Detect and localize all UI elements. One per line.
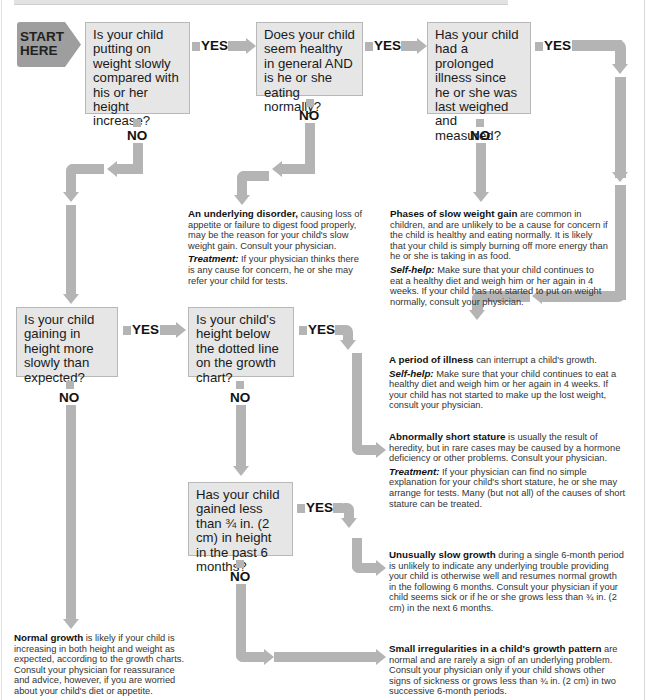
no-marker-icon [236, 381, 244, 389]
question-healthy-eating: Does your child seem healthy in general … [256, 22, 363, 96]
page-edge-right [644, 0, 645, 700]
no-label-q2: NO [299, 108, 319, 123]
yes-label-q3: YES [535, 38, 571, 53]
yes-marker-icon [535, 42, 543, 51]
arrow-right-icon [376, 649, 386, 665]
arrow-bend [344, 503, 354, 519]
arrow-down-icon [63, 192, 79, 202]
arrow-right-icon [264, 649, 274, 665]
question-gained-less: Has your child gained less than ¾ in. (2… [188, 482, 293, 556]
outcome-title: Small irregularities in a child's growth… [389, 643, 601, 654]
arrow-down-icon [63, 294, 79, 304]
arrow-shaft [236, 584, 246, 662]
no-marker-icon [133, 119, 141, 127]
outcome-subtitle: Self-help: [389, 368, 434, 379]
yes-text: YES [308, 322, 335, 337]
yes-text: YES [132, 322, 159, 337]
yes-label-q5: YES [299, 322, 335, 337]
arrow-bend [237, 171, 247, 196]
arrow-down-icon [469, 310, 485, 320]
arrow-right-icon [376, 560, 386, 576]
yes-marker-icon [365, 42, 373, 51]
arrow-shaft [274, 652, 378, 662]
arrow-right-icon [417, 38, 427, 54]
no-marker-icon [66, 381, 74, 389]
outcome-period-of-illness: A period of illness can interrupt a chil… [389, 355, 619, 414]
arrow-down-icon [612, 64, 628, 74]
arrow-shaft [615, 77, 626, 178]
no-marker-icon [236, 560, 244, 568]
yes-marker-icon [299, 326, 307, 335]
arrow-down-icon [473, 192, 489, 202]
arrow-shaft [160, 325, 176, 335]
outcome-slow-weight-gain: Phases of slow weight gain are common in… [390, 209, 608, 310]
arrow-down-icon [63, 619, 79, 629]
arrow-bend [352, 445, 376, 455]
outcome-short-stature: Abnormally short stature is usually the … [389, 432, 629, 512]
outcome-slow-growth: Unusually slow growth during a single 6-… [389, 550, 625, 617]
outcome-normal-growth: Normal growth is likely if your child is… [14, 633, 186, 700]
arrow-shaft [228, 41, 246, 51]
outcome-title: A period of illness [389, 354, 474, 365]
arrow-shaft [117, 164, 143, 174]
arrow-shaft [66, 205, 76, 295]
arrow-down-icon [233, 466, 249, 476]
outcome-title: Normal growth [14, 632, 83, 643]
outcome-title: An underlying disorder, [188, 208, 298, 219]
start-label-line1: START [20, 30, 70, 44]
question-prolonged-illness: Has your child had a prolonged illness s… [427, 22, 531, 114]
arrow-shaft [615, 185, 626, 300]
arrow-right-icon [376, 442, 386, 458]
yes-label-q6: YES [297, 500, 333, 515]
header-bar [14, 0, 508, 5]
arrow-down-icon [234, 195, 250, 205]
no-label-q4: NO [59, 390, 79, 405]
yes-label-q1: YES [192, 38, 228, 53]
no-marker-icon [306, 99, 314, 107]
page-edge-left [1, 0, 2, 700]
arrow-down-icon [612, 172, 628, 182]
yes-marker-icon [297, 504, 305, 513]
yes-text: YES [544, 38, 571, 53]
yes-marker-icon [123, 326, 131, 335]
arrow-down-icon [340, 340, 356, 350]
arrow-shaft [476, 143, 486, 193]
yes-text: YES [201, 38, 228, 53]
question-weight-slow: Is your child putting on weight slowly c… [85, 22, 190, 114]
yes-text: YES [306, 500, 333, 515]
no-label-q1: NO [127, 128, 147, 143]
arrow-shaft [352, 353, 362, 455]
outcome-small-irregularities: Small irregularities in a child's growth… [389, 644, 625, 700]
outcome-subtitle: Treatment: [188, 253, 238, 264]
outcome-underlying-disorder: An underlying disorder, causing loss of … [188, 209, 364, 289]
arrow-bend [352, 563, 376, 573]
outcome-body: can interrupt a child's growth. [474, 355, 597, 365]
arrow-shaft [66, 405, 76, 620]
yes-text: YES [374, 38, 401, 53]
question-height-slow: Is your child gaining in height more slo… [16, 307, 118, 377]
arrow-shaft [282, 164, 315, 174]
arrow-down-icon [341, 518, 357, 528]
no-label-q6: NO [230, 569, 250, 584]
arrow-shaft [236, 405, 246, 467]
no-marker-icon [476, 119, 484, 127]
no-label-q3: NO [470, 128, 490, 143]
yes-label-q2: YES [365, 38, 401, 53]
arrow-left-icon [107, 161, 117, 177]
start-label: START HERE [20, 30, 70, 58]
outcome-title: Phases of slow weight gain [390, 208, 517, 219]
arrow-bend [66, 164, 76, 194]
arrow-shaft [401, 41, 417, 51]
question-below-dotted-line: Is your child's height below the dotted … [188, 307, 294, 377]
yes-marker-icon [192, 42, 200, 51]
yes-label-q4: YES [123, 322, 159, 337]
start-label-line2: HERE [20, 44, 70, 58]
arrow-bend [615, 40, 626, 64]
outcome-subtitle: Self-help: [390, 264, 435, 275]
arrow-right-icon [176, 322, 186, 338]
no-label-q5: NO [230, 390, 250, 405]
arrow-right-icon [246, 38, 256, 54]
outcome-title: Unusually slow growth [389, 549, 496, 560]
arrow-bend [236, 652, 264, 662]
arrow-bend [343, 325, 353, 340]
